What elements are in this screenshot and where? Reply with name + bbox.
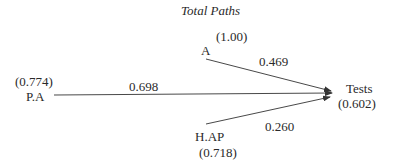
node-a-value: (1.00): [216, 30, 247, 43]
node-tests-label: Tests: [346, 82, 373, 95]
edge-a-tests-weight: 0.469: [259, 55, 288, 68]
node-a-label: A: [201, 44, 210, 57]
node-pa-value: (0.774): [15, 75, 53, 88]
edge-pa-tests-weight: 0.698: [129, 80, 158, 93]
node-hap-label: H.AP: [195, 130, 224, 143]
edge-hap-tests-weight: 0.260: [265, 120, 294, 133]
edge-pa-tests: [54, 93, 332, 95]
node-pa-label: P.A: [26, 90, 44, 103]
node-tests-value: (0.602): [338, 97, 376, 110]
node-hap-value: (0.718): [199, 146, 237, 159]
